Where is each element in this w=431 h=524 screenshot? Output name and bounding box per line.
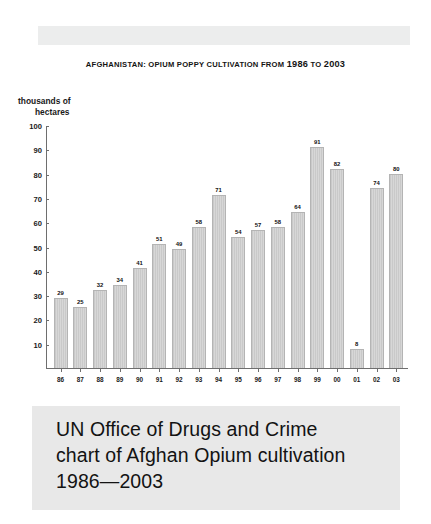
scan-artifact-band	[38, 26, 410, 45]
x-axis-tick-label: 98	[294, 376, 301, 383]
bar-item: 5191	[152, 126, 167, 368]
bar-value-label: 51	[156, 236, 163, 243]
bar-item: 9199	[310, 126, 325, 368]
y-axis-tick-label: 70	[16, 194, 42, 203]
caption-block: UN Office of Drugs and Crime chart of Af…	[32, 406, 400, 510]
x-axis-tick-label: 97	[274, 376, 281, 383]
bar-item: 801	[349, 126, 364, 368]
bar-value-label: 71	[215, 187, 222, 194]
bar-rect	[271, 227, 285, 368]
bar-item: 4190	[132, 126, 147, 368]
bar-series: 2986258732883489419051914992589371945495…	[47, 126, 408, 368]
x-axis-tick-mark	[199, 368, 200, 372]
caption-line-3: 1986—2003	[56, 468, 400, 494]
bar-chart-plot-area: 102030405060708090100 298625873288348941…	[46, 126, 408, 369]
caption-line-2: chart of Afghan Opium cultivation	[56, 442, 400, 468]
bar-rect	[330, 169, 344, 368]
x-axis-tick-label: 00	[333, 376, 340, 383]
y-axis-title-line2: hectares	[18, 107, 130, 118]
bar-value-label: 41	[136, 260, 143, 267]
bar-value-label: 8	[355, 341, 358, 348]
bar-rect	[133, 268, 147, 368]
y-axis-title-line1: thousands of	[18, 96, 71, 106]
x-axis-tick-mark	[278, 368, 279, 372]
x-axis-tick-mark	[120, 368, 121, 372]
bar-value-label: 57	[255, 222, 262, 229]
x-axis-tick-mark	[396, 368, 397, 372]
x-axis-tick-mark	[337, 368, 338, 372]
caption-line-1: UN Office of Drugs and Crime	[56, 416, 400, 442]
chart-title: AFGHANISTAN: OPIUM POPPY CULTIVATION FRO…	[0, 59, 431, 69]
x-axis-tick-mark	[140, 368, 141, 372]
bar-value-label: 58	[274, 219, 281, 226]
x-axis-tick-label: 02	[373, 376, 380, 383]
x-axis-tick-label: 86	[57, 376, 64, 383]
bar-value-label: 25	[77, 299, 84, 306]
x-axis-tick-label: 91	[156, 376, 163, 383]
bar-rect	[113, 285, 127, 368]
x-axis-tick-label: 89	[116, 376, 123, 383]
bar-rect	[192, 227, 206, 368]
x-axis-tick-label: 93	[195, 376, 202, 383]
bar-item: 4992	[172, 126, 187, 368]
bar-rect	[73, 307, 87, 368]
bar-value-label: 32	[97, 282, 104, 289]
bar-value-label: 91	[314, 139, 321, 146]
scanned-page: AFGHANISTAN: OPIUM POPPY CULTIVATION FRO…	[0, 0, 431, 524]
bar-rect	[350, 349, 364, 368]
x-axis-tick-mark	[159, 368, 160, 372]
bar-rect	[231, 237, 245, 368]
bar-value-label: 82	[334, 161, 341, 168]
bar-rect	[152, 244, 166, 368]
bar-value-label: 49	[176, 241, 183, 248]
bar-item: 5796	[251, 126, 266, 368]
x-axis-tick-label: 96	[254, 376, 261, 383]
bar-value-label: 58	[195, 219, 202, 226]
bar-rect	[251, 230, 265, 369]
bar-value-label: 54	[235, 229, 242, 236]
x-axis-tick-label: 03	[393, 376, 400, 383]
bar-item: 8003	[389, 126, 404, 368]
y-axis-tick-label: 60	[16, 219, 42, 228]
x-axis-tick-mark	[317, 368, 318, 372]
plot-inner: 102030405060708090100 298625873288348941…	[46, 126, 408, 369]
x-axis-tick-label: 90	[136, 376, 143, 383]
y-axis-tick-label: 20	[16, 316, 42, 325]
bar-item: 3489	[112, 126, 127, 368]
x-axis-tick-label: 92	[175, 376, 182, 383]
bar-value-label: 80	[393, 166, 400, 173]
bar-item: 5893	[191, 126, 206, 368]
y-axis-tick-label: 40	[16, 267, 42, 276]
bar-rect	[291, 212, 305, 368]
bar-item: 3288	[93, 126, 108, 368]
bar-rect	[370, 188, 384, 368]
y-axis-title: thousands of hectares	[18, 96, 130, 117]
x-axis-tick-label: 99	[314, 376, 321, 383]
x-axis-tick-mark	[61, 368, 62, 372]
x-axis-tick-mark	[219, 368, 220, 372]
bar-value-label: 29	[57, 290, 64, 297]
x-axis-tick-mark	[258, 368, 259, 372]
bar-item: 7194	[211, 126, 226, 368]
y-axis-tick-label: 100	[16, 122, 42, 131]
y-axis-tick-label: 50	[16, 243, 42, 252]
bar-item: 7402	[369, 126, 384, 368]
bar-item: 5897	[270, 126, 285, 368]
x-axis-tick-mark	[298, 368, 299, 372]
x-axis-tick-label: 01	[353, 376, 360, 383]
bar-item: 6498	[290, 126, 305, 368]
x-axis-tick-mark	[179, 368, 180, 372]
bar-item: 2587	[73, 126, 88, 368]
bar-rect	[172, 249, 186, 368]
y-axis-tick-label: 10	[16, 340, 42, 349]
bar-rect	[54, 298, 68, 368]
x-axis-tick-mark	[357, 368, 358, 372]
bar-rect	[310, 147, 324, 368]
y-axis-tick-label: 30	[16, 292, 42, 301]
bar-item: 8200	[330, 126, 345, 368]
bar-value-label: 74	[373, 180, 380, 187]
x-axis-tick-mark	[238, 368, 239, 372]
x-axis-tick-mark	[80, 368, 81, 372]
bar-value-label: 64	[294, 204, 301, 211]
y-axis-tick-label: 80	[16, 170, 42, 179]
